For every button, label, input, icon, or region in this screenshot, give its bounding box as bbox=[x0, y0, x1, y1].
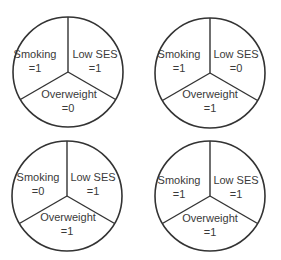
pie-2: Smoking =1 Low SES =0 Overweight =1 bbox=[155, 18, 265, 128]
low-ses-value: =1 bbox=[87, 185, 100, 197]
pie-diagram: Smoking =1 Low SES =1 Overweight =0 Smok… bbox=[0, 0, 281, 260]
low-ses-label: Low SES bbox=[72, 48, 117, 60]
smoking-label: Smoking bbox=[158, 174, 201, 186]
pie-3: Smoking =0 Low SES =1 Overweight =1 bbox=[12, 141, 122, 251]
smoking-label: Smoking bbox=[158, 48, 201, 60]
overweight-value: =1 bbox=[61, 225, 74, 237]
low-ses-value: =1 bbox=[89, 62, 102, 74]
overweight-value: =1 bbox=[204, 226, 217, 238]
overweight-value: =1 bbox=[204, 102, 217, 114]
overweight-value: =0 bbox=[62, 102, 75, 114]
low-ses-label: Low SES bbox=[213, 48, 258, 60]
pie-1: Smoking =1 Low SES =1 Overweight =0 bbox=[13, 17, 123, 127]
low-ses-label: Low SES bbox=[70, 171, 115, 183]
smoking-value: =1 bbox=[29, 62, 42, 74]
overweight-label: Overweight bbox=[41, 88, 97, 100]
smoking-label: Smoking bbox=[17, 171, 60, 183]
smoking-label: Smoking bbox=[14, 48, 57, 60]
low-ses-value: =1 bbox=[230, 188, 243, 200]
overweight-label: Overweight bbox=[182, 88, 238, 100]
low-ses-value: =0 bbox=[230, 62, 243, 74]
low-ses-label: Low SES bbox=[213, 174, 258, 186]
overweight-label: Overweight bbox=[182, 212, 238, 224]
smoking-value: =1 bbox=[173, 188, 186, 200]
overweight-label: Overweight bbox=[40, 211, 96, 223]
pie-4: Smoking =1 Low SES =1 Overweight =1 bbox=[155, 141, 265, 251]
smoking-value: =1 bbox=[173, 62, 186, 74]
smoking-value: =0 bbox=[32, 185, 45, 197]
